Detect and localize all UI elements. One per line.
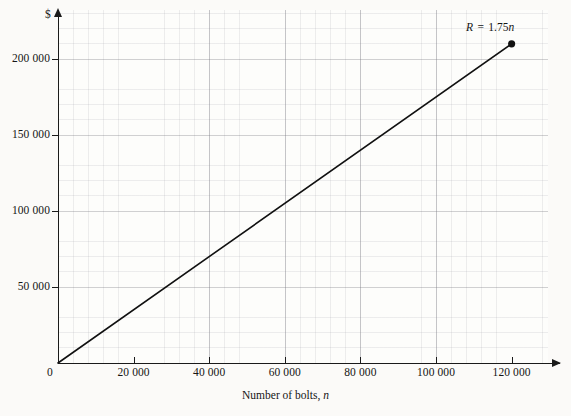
series-line-r-equals-1-75n (58, 44, 512, 363)
equation-slope: 1.75 (488, 21, 508, 33)
series-equation-annotation: R = 1.75n (466, 21, 514, 33)
equation-variable: n (508, 21, 514, 33)
series-plot (0, 0, 571, 416)
equation-operator: = (473, 21, 488, 33)
chart-figure: $ Number of bolts, n 0 50 000100 000150 … (0, 0, 571, 416)
equation-symbol: R (466, 21, 473, 33)
series-endpoint-marker (508, 40, 515, 47)
